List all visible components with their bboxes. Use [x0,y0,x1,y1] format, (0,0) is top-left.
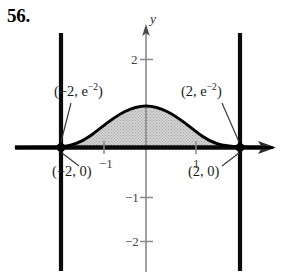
point-marker-neg2 [56,143,65,151]
y-tick-label-neg1: −1 [125,191,139,204]
leader-line-pos2-e [222,103,239,142]
plot-canvas [0,0,285,279]
figure-container: 56. [0,0,285,279]
annotation-left-curve-point-close: ) [98,83,103,99]
y-axis-label: y [150,12,156,26]
annotation-left-curve-point-exponent: −2 [88,82,98,92]
annotation-right-curve-point-text: (2, e [181,83,207,99]
y-tick-label-2: 2 [131,53,138,66]
annotation-left-zero-point: (−2, 0) [52,164,92,179]
annotation-left-curve-point: (−2, e−2) [54,84,103,99]
point-marker-pos2 [235,143,244,151]
annotation-right-curve-point-close: ) [217,83,222,99]
annotation-right-curve-point-exponent: −2 [207,82,217,92]
leader-line-pos2-zero [222,153,239,166]
annotation-right-curve-point: (2, e−2) [181,84,222,99]
x-tick-label-neg1: −1 [99,157,113,170]
x-tick-label-pos1: 1 [193,157,200,170]
annotation-left-curve-point-text: (−2, e [54,83,88,99]
y-tick-label-neg2: −2 [125,235,139,248]
